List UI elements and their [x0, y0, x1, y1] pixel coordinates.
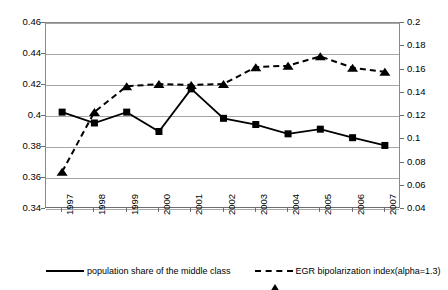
data-point-square — [59, 109, 66, 116]
category-axis-tick — [352, 208, 353, 212]
triangle-marker-icon — [255, 266, 293, 276]
category-axis-tick — [384, 208, 385, 212]
right-axis-tick — [400, 185, 404, 186]
left-axis-tick — [41, 208, 45, 209]
category-axis-label: 2002 — [227, 194, 237, 215]
category-axis-tick — [223, 208, 224, 212]
data-point-square — [381, 142, 388, 149]
left-axis-tick-label: 0.4 — [1, 110, 41, 120]
right-axis-tick — [400, 138, 404, 139]
data-point-square — [317, 126, 324, 133]
category-axis-label: 2007 — [388, 194, 398, 215]
left-axis-tick — [41, 22, 45, 23]
data-point-square — [91, 119, 98, 126]
right-axis-tick-label: 0.12 — [407, 110, 447, 120]
left-axis-tick-label: 0.44 — [1, 48, 41, 58]
square-marker-icon — [46, 266, 84, 276]
right-axis-tick-label: 0.2 — [407, 17, 447, 27]
data-point-triangle — [57, 168, 68, 176]
series-line-egr-index — [62, 56, 385, 171]
category-axis-tick — [93, 208, 94, 212]
category-axis-tick — [61, 208, 62, 212]
right-axis-tick-label: 0.1 — [407, 133, 447, 143]
legend-label-egr-index: EGR bipolarization index(alpha=1.3) — [296, 266, 441, 276]
category-axis-label: 2005 — [323, 194, 333, 215]
right-axis-tick — [400, 45, 404, 46]
data-point-triangle — [186, 81, 197, 89]
chart-legend: population share of the middle class EGR… — [46, 262, 402, 280]
right-axis-tick-label: 0.14 — [407, 87, 447, 97]
category-axis-label: 2006 — [356, 194, 366, 215]
category-axis-tick — [287, 208, 288, 212]
right-axis-tick-label: 0.04 — [407, 203, 447, 213]
left-axis-tick — [41, 53, 45, 54]
legend-entry-egr-index: EGR bipolarization index(alpha=1.3) — [255, 266, 441, 276]
left-axis-tick-label: 0.34 — [1, 203, 41, 213]
data-point-square — [220, 115, 227, 122]
right-axis-tick-label: 0.16 — [407, 64, 447, 74]
right-axis-tick-label: 0.18 — [407, 40, 447, 50]
plot-area — [45, 22, 400, 208]
left-axis-tick — [41, 177, 45, 178]
data-point-triangle — [250, 63, 261, 71]
category-axis-label: 1999 — [130, 194, 140, 215]
category-axis-tick — [158, 208, 159, 212]
right-axis-tick-label: 0.06 — [407, 180, 447, 190]
data-point-square — [123, 109, 130, 116]
category-axis-label: 2000 — [162, 194, 172, 215]
left-axis-tick-label: 0.38 — [1, 141, 41, 151]
data-point-square — [155, 128, 162, 135]
chart-container: 0.340.360.380.40.420.440.46 0.040.060.08… — [0, 0, 448, 290]
category-axis-label: 2003 — [259, 194, 269, 215]
left-axis-tick — [41, 84, 45, 85]
category-axis-tick — [190, 208, 191, 212]
left-axis-tick-label: 0.46 — [1, 17, 41, 27]
right-axis-tick — [400, 92, 404, 93]
category-axis-label: 1998 — [97, 194, 107, 215]
right-axis-tick — [400, 162, 404, 163]
category-axis-tick — [255, 208, 256, 212]
right-axis-tick — [400, 22, 404, 23]
category-axis-tick — [126, 208, 127, 212]
data-point-square — [285, 130, 292, 137]
legend-entry-middle-class: population share of the middle class — [46, 266, 231, 276]
category-axis-tick — [319, 208, 320, 212]
left-axis-tick-label: 0.42 — [1, 79, 41, 89]
category-axis-label: 1997 — [65, 194, 75, 215]
left-axis-tick — [41, 146, 45, 147]
right-axis-tick — [400, 208, 404, 209]
series-layer — [46, 23, 401, 209]
left-axis-tick — [41, 115, 45, 116]
right-axis-tick-label: 0.08 — [407, 157, 447, 167]
left-axis-tick-label: 0.36 — [1, 172, 41, 182]
right-axis-tick — [400, 115, 404, 116]
category-axis-label: 2004 — [291, 194, 301, 215]
data-point-triangle — [347, 64, 358, 72]
data-point-square — [349, 134, 356, 141]
right-axis-tick — [400, 69, 404, 70]
legend-label-middle-class: population share of the middle class — [87, 266, 231, 276]
data-point-square — [252, 121, 259, 128]
data-point-triangle — [315, 52, 326, 60]
category-axis-label: 2001 — [194, 194, 204, 215]
